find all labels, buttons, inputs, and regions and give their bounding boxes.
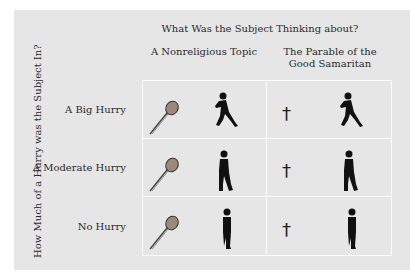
figure-title: What Was the Subject Thinking about? <box>130 23 390 34</box>
microphone-icon <box>147 157 181 193</box>
running-person-icon <box>336 92 366 130</box>
column-label-line: The Parable of the <box>268 46 392 58</box>
column-label-line: A Nonreligious Topic <box>142 46 266 58</box>
grid-divider <box>142 196 392 197</box>
running-person-icon <box>211 92 241 130</box>
row-label-big-hurry: A Big Hurry <box>65 104 126 115</box>
microphone-icon <box>147 100 181 136</box>
cross-icon: † <box>282 160 291 181</box>
standing-person-icon <box>221 208 233 250</box>
column-label-nonreligious: A Nonreligious Topic <box>142 46 266 58</box>
column-label-samaritan: The Parable of the Good Samaritan <box>268 46 392 70</box>
standing-person-icon <box>346 208 358 250</box>
microphone-icon <box>147 215 181 251</box>
cross-icon: † <box>282 103 291 124</box>
cross-icon: † <box>282 219 291 240</box>
row-label-no-hurry: No Hurry <box>78 221 126 232</box>
column-label-line: Good Samaritan <box>268 58 392 70</box>
walking-person-icon <box>342 150 360 194</box>
row-label-moderate-hurry: A Moderate Hurry <box>33 162 126 173</box>
walking-person-icon <box>217 150 235 194</box>
grid-divider <box>266 80 267 256</box>
grid-divider <box>142 138 392 139</box>
